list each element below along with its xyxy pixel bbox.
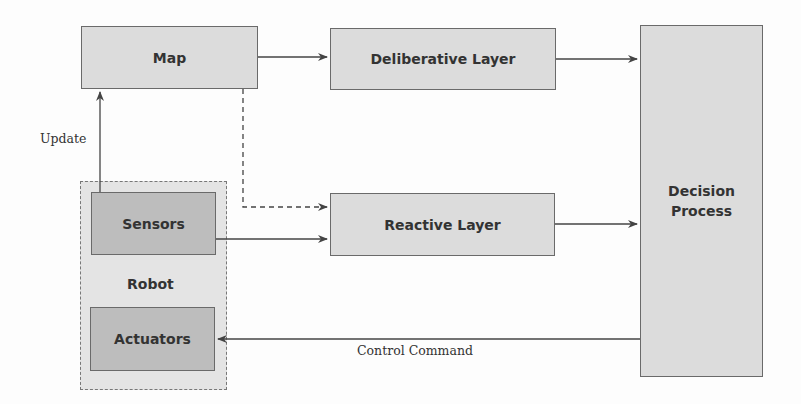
map-to-reactive-dashed-arrow <box>243 89 327 207</box>
control-command-edge-label: Control Command <box>357 343 473 358</box>
update-edge-label: Update <box>40 131 86 146</box>
